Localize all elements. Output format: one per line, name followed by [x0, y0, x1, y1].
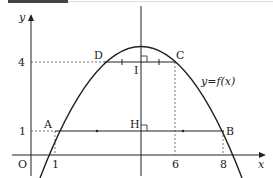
guide-lines — [31, 62, 223, 155]
point-I-label: I — [134, 64, 138, 77]
curve-label: y=f(x) — [200, 75, 235, 88]
axes — [12, 6, 262, 176]
y-tick-4: 4 — [18, 56, 25, 69]
x-tick-1: 1 — [52, 158, 59, 171]
y-axis-arrow-icon — [28, 14, 34, 21]
x-tick-8: 8 — [220, 158, 227, 171]
x-axis-label: x — [258, 158, 265, 171]
x-tick-6: 6 — [172, 158, 179, 171]
point-D-label: D — [94, 49, 103, 62]
right-angle-icon — [141, 56, 147, 62]
origin-label: O — [18, 158, 27, 171]
y-axis-label: y — [18, 11, 26, 24]
point-A-label: A — [43, 118, 53, 131]
point-H-label: H — [130, 118, 140, 131]
parabola-diagram: y x O 4 1 1 6 8 D C I A B H y=f(x) — [0, 0, 273, 178]
point-B-label: B — [226, 125, 234, 138]
right-angle-icon — [141, 125, 147, 131]
midpoint-dot — [96, 130, 99, 133]
point-C-label: C — [176, 49, 184, 62]
midpoint-dot — [182, 130, 185, 133]
y-tick-1: 1 — [19, 125, 26, 138]
